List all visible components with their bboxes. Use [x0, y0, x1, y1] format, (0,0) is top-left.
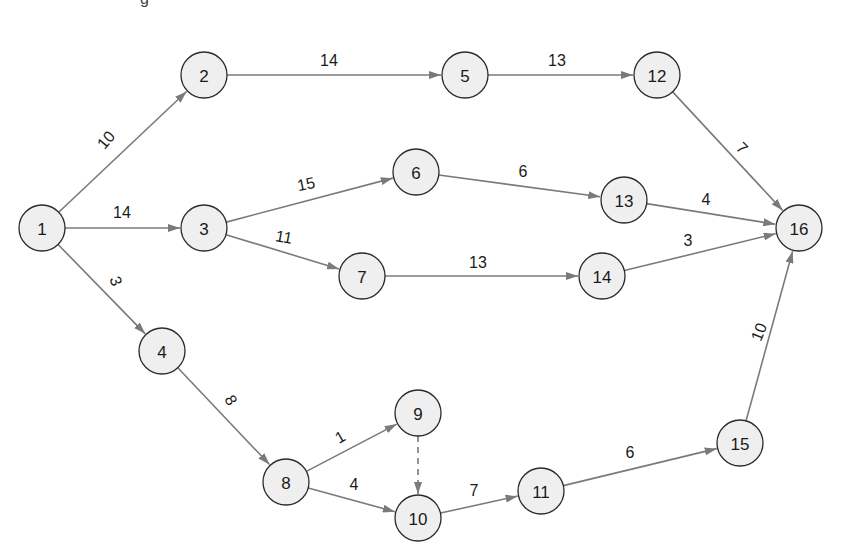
edge-label-15-16: 10	[748, 320, 770, 343]
edge-1-to-2	[59, 91, 187, 212]
node-3: 3	[181, 205, 227, 251]
edge-12-to-16	[673, 92, 783, 211]
edge-label-3-7: 11	[274, 227, 293, 247]
node-11: 11	[518, 468, 564, 514]
edge-label-1-4: 3	[106, 274, 125, 288]
edge-label-14-16: 3	[684, 232, 693, 249]
edge-11-to-15	[563, 449, 716, 486]
node-label: 9	[413, 405, 422, 424]
nodes-layer: 12345678910111213141516	[19, 52, 822, 541]
edge-1-to-4	[58, 244, 145, 333]
node-label: 3	[199, 220, 208, 239]
edge-label-8-10: 4	[350, 476, 359, 493]
node-label: 6	[411, 164, 420, 183]
edge-label-10-11: 7	[470, 482, 479, 499]
edge-label-8-9: 1	[332, 427, 348, 446]
edge-10-to-11	[440, 496, 517, 513]
edge-label-7-14: 13	[469, 254, 487, 271]
node-10: 10	[395, 495, 441, 541]
edge-label-11-15: 6	[626, 444, 635, 461]
node-13: 13	[601, 177, 647, 223]
edge-label-3-6: 15	[296, 174, 317, 194]
node-1: 1	[19, 205, 65, 251]
node-5: 5	[442, 52, 488, 98]
node-12: 12	[634, 52, 680, 98]
node-2: 2	[181, 52, 227, 98]
partial-caption-glyph: g	[140, 0, 149, 7]
edge-4-to-8	[178, 368, 270, 465]
node-7: 7	[339, 253, 385, 299]
node-14: 14	[579, 253, 625, 299]
edge-13-to-16	[647, 204, 776, 225]
node-label: 13	[615, 192, 634, 211]
node-label: 1	[37, 220, 46, 239]
node-label: 15	[731, 435, 750, 454]
node-9: 9	[395, 390, 441, 436]
edge-label-1-3: 14	[113, 204, 131, 221]
node-label: 14	[593, 268, 612, 287]
node-15: 15	[717, 420, 763, 466]
node-label: 11	[532, 483, 550, 502]
node-label: 10	[409, 510, 428, 529]
node-label: 4	[157, 343, 166, 362]
node-8: 8	[263, 459, 309, 505]
edge-label-12-16: 7	[733, 139, 751, 157]
node-label: 2	[199, 67, 208, 86]
network-diagram: g 10143141315116137438147610 12345678910…	[0, 0, 844, 555]
node-4: 4	[139, 328, 185, 374]
edge-label-5-12: 13	[548, 52, 566, 69]
edge-label-1-2: 10	[94, 128, 119, 153]
edge-label-13-16: 4	[702, 191, 711, 208]
node-label: 5	[460, 67, 469, 86]
node-label: 8	[281, 474, 290, 493]
node-16: 16	[776, 205, 822, 251]
edges-layer	[58, 75, 793, 513]
edge-14-to-16	[624, 234, 775, 271]
node-label: 12	[648, 67, 667, 86]
edge-label-6-13: 6	[519, 163, 528, 180]
node-6: 6	[393, 149, 439, 195]
edge-label-2-5: 14	[320, 52, 338, 69]
edge-label-4-8: 8	[221, 392, 240, 408]
edge-8-to-9	[306, 424, 396, 471]
node-label: 16	[790, 220, 809, 239]
node-label: 7	[357, 268, 366, 287]
